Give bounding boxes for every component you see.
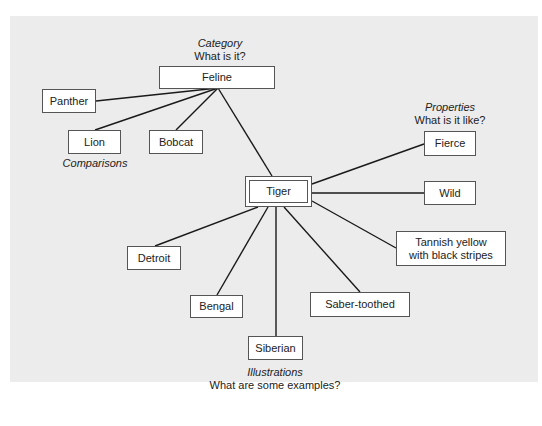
- properties-title: Properties: [400, 101, 500, 114]
- node-bobcat-label: Bobcat: [159, 136, 193, 149]
- node-siberian-label: Siberian: [255, 342, 295, 355]
- node-lion: Lion: [68, 130, 121, 154]
- node-bengal: Bengal: [190, 295, 243, 318]
- category-heading: Category What is it?: [180, 37, 260, 63]
- node-panther-label: Panther: [50, 95, 89, 108]
- node-bengal-label: Bengal: [199, 300, 233, 313]
- node-bobcat: Bobcat: [149, 130, 203, 154]
- properties-question: What is it like?: [400, 114, 500, 127]
- node-tiger-inner: Tiger: [249, 180, 308, 203]
- connector-lines: [0, 0, 542, 426]
- node-tannish: Tannish yellow with black stripes: [396, 231, 506, 266]
- node-feline: Feline: [159, 66, 275, 89]
- illustrations-heading: Illustrations What are some examples?: [205, 366, 345, 392]
- node-fierce: Fierce: [424, 131, 476, 156]
- line-feline-tiger: [218, 88, 272, 176]
- node-feline-label: Feline: [202, 71, 232, 84]
- category-question: What is it?: [180, 50, 260, 63]
- node-panther: Panther: [42, 89, 96, 113]
- line-feline-bobcat: [176, 88, 218, 130]
- node-fierce-label: Fierce: [435, 137, 466, 150]
- line-tiger-fierce: [312, 144, 424, 184]
- line-tiger-saber: [284, 207, 360, 292]
- node-tiger-label: Tiger: [266, 185, 291, 198]
- line-tiger-tannish: [312, 201, 396, 248]
- illustrations-question: What are some examples?: [205, 379, 345, 392]
- node-lion-label: Lion: [84, 136, 105, 149]
- comparisons-title: Comparisons: [55, 157, 135, 170]
- node-wild-label: Wild: [439, 187, 460, 200]
- properties-heading: Properties What is it like?: [400, 101, 500, 127]
- node-saber-toothed: Saber-toothed: [310, 292, 410, 317]
- node-detroit-label: Detroit: [138, 252, 170, 265]
- comparisons-heading: Comparisons: [55, 157, 135, 170]
- line-tiger-detroit: [155, 207, 258, 246]
- node-saber-toothed-label: Saber-toothed: [325, 298, 395, 311]
- node-tannish-label: Tannish yellow with black stripes: [409, 236, 493, 262]
- node-wild: Wild: [424, 181, 476, 205]
- illustrations-title: Illustrations: [205, 366, 345, 379]
- node-tiger: Tiger: [245, 176, 312, 207]
- category-title: Category: [180, 37, 260, 50]
- node-detroit: Detroit: [127, 246, 181, 270]
- node-siberian: Siberian: [248, 336, 303, 360]
